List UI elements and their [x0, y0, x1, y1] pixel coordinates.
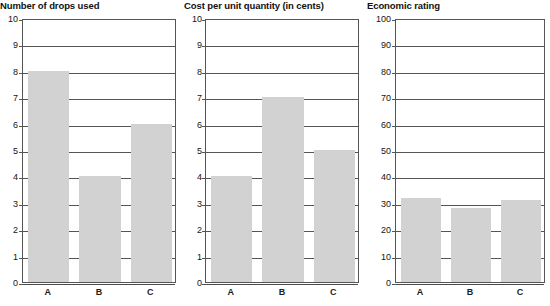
- y-tick-label: 10: [8, 15, 18, 24]
- y-tick-mark: [19, 126, 23, 127]
- y-tick-label: 60: [381, 120, 391, 129]
- y-tick-mark: [19, 73, 23, 74]
- y-tick-mark: [202, 258, 206, 259]
- y-tick-label: 8: [197, 67, 202, 76]
- chart-panel: Number of drops used012345678910ABC: [0, 0, 184, 306]
- y-tick-label: 0: [386, 279, 391, 288]
- y-tick-mark: [392, 46, 396, 47]
- y-tick-mark: [202, 20, 206, 21]
- y-tick-label: 70: [381, 94, 391, 103]
- y-tick-label: 10: [381, 252, 391, 261]
- y-axis-ticks: [23, 20, 175, 282]
- y-tick-mark: [392, 284, 396, 285]
- y-tick-mark: [392, 152, 396, 153]
- y-axis-ticks: [396, 20, 544, 282]
- chart-panel: Cost per unit quantity (in cents)0123456…: [184, 0, 367, 306]
- y-tick-mark: [392, 20, 396, 21]
- plot-area: [205, 19, 359, 283]
- y-tick-label: 90: [381, 41, 391, 50]
- y-tick-label: 40: [381, 173, 391, 182]
- y-tick-label: 0: [13, 279, 18, 288]
- y-tick-label: 2: [197, 226, 202, 235]
- chart-title: Economic rating: [367, 0, 440, 11]
- x-category-label: B: [467, 287, 474, 297]
- y-tick-label: 9: [13, 41, 18, 50]
- y-tick-mark: [392, 205, 396, 206]
- y-tick-mark: [19, 205, 23, 206]
- x-category-label: B: [96, 287, 103, 297]
- y-tick-mark: [19, 231, 23, 232]
- y-tick-label: 6: [197, 120, 202, 129]
- y-axis-tick-labels: 012345678910: [0, 19, 18, 283]
- y-tick-label: 3: [13, 199, 18, 208]
- x-category-label: A: [44, 287, 51, 297]
- y-tick-mark: [202, 178, 206, 179]
- y-tick-mark: [202, 152, 206, 153]
- y-tick-mark: [19, 152, 23, 153]
- gridline: [23, 284, 175, 285]
- y-tick-mark: [19, 20, 23, 21]
- y-tick-mark: [392, 231, 396, 232]
- y-tick-label: 3: [197, 199, 202, 208]
- y-tick-label: 80: [381, 67, 391, 76]
- y-axis-ticks: [206, 20, 358, 282]
- y-tick-label: 6: [13, 120, 18, 129]
- x-category-label: B: [279, 287, 286, 297]
- x-category-label: A: [417, 287, 424, 297]
- y-tick-label: 8: [13, 67, 18, 76]
- gridline: [396, 284, 544, 285]
- y-tick-mark: [202, 99, 206, 100]
- y-axis-tick-labels: 012345678910: [184, 19, 202, 283]
- x-axis-category-labels: ABC: [205, 287, 359, 301]
- y-tick-label: 1: [13, 252, 18, 261]
- y-tick-label: 30: [381, 199, 391, 208]
- plot-area: [22, 19, 176, 283]
- y-tick-label: 20: [381, 226, 391, 235]
- y-tick-label: 100: [376, 15, 391, 24]
- y-tick-mark: [202, 284, 206, 285]
- y-tick-mark: [202, 126, 206, 127]
- y-tick-label: 5: [13, 147, 18, 156]
- chart-group: Number of drops used012345678910ABCCost …: [0, 0, 550, 306]
- y-tick-mark: [19, 46, 23, 47]
- y-tick-label: 7: [197, 94, 202, 103]
- x-axis-category-labels: ABC: [22, 287, 176, 301]
- chart-panel: Economic rating0102030405060708090100ABC: [367, 0, 550, 306]
- y-tick-label: 4: [197, 173, 202, 182]
- y-tick-label: 7: [13, 94, 18, 103]
- chart-title: Cost per unit quantity (in cents): [184, 0, 324, 11]
- y-tick-mark: [392, 126, 396, 127]
- y-tick-mark: [392, 258, 396, 259]
- y-tick-mark: [19, 284, 23, 285]
- gridline: [206, 284, 358, 285]
- y-tick-mark: [202, 231, 206, 232]
- y-tick-mark: [202, 73, 206, 74]
- y-tick-label: 5: [197, 147, 202, 156]
- x-category-label: A: [227, 287, 234, 297]
- y-axis-tick-labels: 0102030405060708090100: [367, 19, 391, 283]
- y-tick-mark: [19, 178, 23, 179]
- y-tick-label: 10: [192, 15, 202, 24]
- x-category-label: C: [330, 287, 337, 297]
- chart-title: Number of drops used: [0, 0, 99, 11]
- y-tick-mark: [19, 99, 23, 100]
- x-category-label: C: [147, 287, 154, 297]
- x-axis-category-labels: ABC: [395, 287, 545, 301]
- y-tick-mark: [392, 73, 396, 74]
- x-category-label: C: [517, 287, 524, 297]
- y-tick-label: 0: [197, 279, 202, 288]
- plot-area: [395, 19, 545, 283]
- y-tick-mark: [202, 205, 206, 206]
- y-tick-mark: [392, 99, 396, 100]
- y-tick-label: 1: [197, 252, 202, 261]
- y-tick-label: 9: [197, 41, 202, 50]
- y-tick-label: 50: [381, 147, 391, 156]
- y-tick-mark: [19, 258, 23, 259]
- y-tick-mark: [202, 46, 206, 47]
- y-tick-mark: [392, 178, 396, 179]
- y-tick-label: 4: [13, 173, 18, 182]
- y-tick-label: 2: [13, 226, 18, 235]
